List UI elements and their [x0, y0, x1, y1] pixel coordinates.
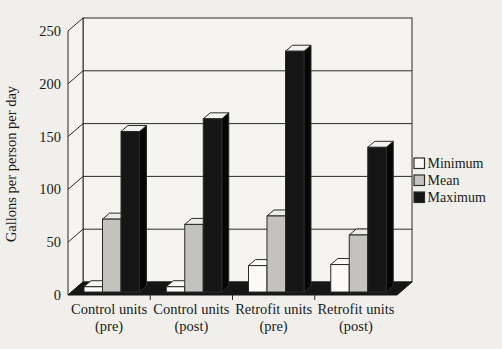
- y-tick-label-50: 50: [47, 234, 62, 250]
- category-label-sub-3: (post): [339, 318, 373, 335]
- category-label-sub-2: (pre): [260, 318, 288, 335]
- bar-maximum-group-3: [368, 147, 387, 292]
- bar-minimum-group-0: [84, 287, 103, 292]
- legend-label-minimum: Minimum: [428, 156, 484, 171]
- bar-maximum-group-2-side: [304, 45, 311, 292]
- bar-minimum-group-2: [249, 266, 268, 292]
- y-tick-label-0: 0: [54, 287, 61, 303]
- bar-chart: 050100150200250Control units(pre)Control…: [0, 0, 502, 349]
- chart-page: 050100150200250Control units(pre)Control…: [0, 0, 502, 349]
- category-label-sub-1: (post): [174, 318, 208, 335]
- bar-maximum-group-1: [203, 119, 222, 292]
- legend-label-maximum: Maximum: [428, 190, 486, 205]
- bar-maximum-group-0: [121, 131, 140, 292]
- y-tick-label-150: 150: [39, 129, 61, 145]
- category-label-sub-0: (pre): [95, 318, 123, 335]
- y-tick-label-100: 100: [39, 181, 61, 197]
- y-axis-title: Gallons per person per day: [3, 85, 19, 242]
- bar-maximum-group-1-side: [222, 113, 229, 292]
- bar-mean-group-3: [349, 235, 368, 292]
- bar-mean-group-2: [267, 216, 286, 292]
- y-tick-label-250: 250: [39, 23, 61, 39]
- legend-swatch-mean: [414, 175, 425, 186]
- bar-maximum-group-2: [286, 51, 305, 292]
- left-wall: [68, 18, 83, 295]
- bar-maximum-group-0-side: [140, 125, 147, 292]
- plot-area: 050100150200250Control units(pre)Control…: [39, 18, 486, 335]
- bar-minimum-group-3: [331, 265, 350, 292]
- legend-label-mean: Mean: [428, 173, 460, 188]
- legend-swatch-minimum: [414, 158, 425, 169]
- bar-mean-group-1: [185, 224, 204, 292]
- category-label-1: Control units: [153, 301, 229, 317]
- bar-mean-group-0: [103, 219, 122, 292]
- legend-swatch-maximum: [414, 192, 425, 203]
- bar-minimum-group-1: [166, 287, 185, 292]
- y-tick-label-200: 200: [39, 76, 61, 92]
- bar-maximum-group-3-side: [386, 141, 393, 292]
- category-label-0: Control units: [71, 301, 147, 317]
- category-label-2: Retrofit units: [235, 301, 312, 317]
- category-label-3: Retrofit units: [317, 301, 394, 317]
